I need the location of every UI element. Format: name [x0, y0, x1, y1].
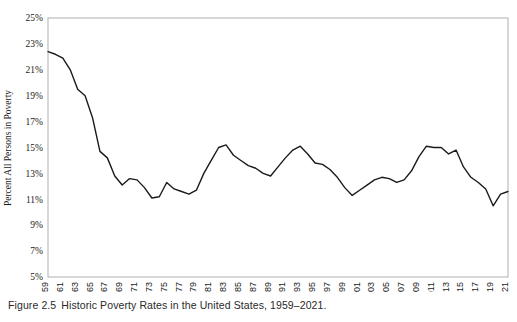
x-tick-label: 1985: [233, 282, 243, 292]
x-tick-label: 2009: [411, 282, 421, 292]
x-tick-label: 1987: [248, 282, 258, 292]
y-tick-label: 11%: [26, 195, 43, 205]
x-tick-label: 1969: [114, 282, 124, 292]
y-tick-label: 19%: [26, 91, 44, 101]
x-tick-label: 1967: [99, 282, 109, 292]
caption-label: Figure 2.5: [8, 299, 56, 311]
figure-caption: Figure 2.5Historic Poverty Rates in the …: [8, 299, 508, 311]
y-tick-label: 13%: [26, 169, 44, 179]
x-tick-label: 1993: [292, 282, 302, 292]
x-tick-label: 2015: [455, 282, 465, 292]
y-axis-title: Percent All Persons in Poverty: [3, 90, 13, 206]
x-tick-label: 1995: [307, 282, 317, 292]
x-tick-label: 1973: [144, 282, 154, 292]
x-tick-label: 2005: [381, 282, 391, 292]
x-tick-label: 2019: [485, 282, 495, 292]
x-tick-label: 1983: [218, 282, 228, 292]
chart-plot-area: Percent All Persons in Poverty 25% 23% 2…: [0, 0, 517, 292]
x-tick-label: 1989: [263, 282, 273, 292]
y-tick-label: 21%: [26, 65, 44, 75]
x-tick-label: 2011: [426, 282, 436, 292]
x-axis-tick-labels: 1959196119631965196719691971197319751977…: [40, 282, 510, 292]
x-tick-label: 1979: [188, 282, 198, 292]
x-tick-label: 1961: [55, 282, 65, 292]
x-tick-label: 1971: [129, 282, 139, 292]
y-tick-label: 23%: [26, 39, 44, 49]
poverty-rate-line-chart: Percent All Persons in Poverty 25% 23% 2…: [0, 0, 517, 292]
x-tick-label: 1965: [85, 282, 95, 292]
x-tick-label: 2017: [470, 282, 480, 292]
y-tick-label: 9%: [30, 220, 43, 230]
y-tick-label: 5%: [30, 272, 43, 282]
x-tick-label: 1977: [174, 282, 184, 292]
x-tick-label: 1975: [159, 282, 169, 292]
x-tick-label: 1963: [70, 282, 80, 292]
x-tick-label: 1991: [277, 282, 287, 292]
x-tick-label: 1999: [337, 282, 347, 292]
y-axis-tick-labels: 25% 23% 21% 19% 17% 15% 13% 11% 9% 7% 5%: [26, 13, 44, 282]
x-tick-label: 2013: [441, 282, 451, 292]
x-tick-label: 2007: [396, 282, 406, 292]
y-tick-label: 15%: [26, 143, 44, 153]
x-tick-label: 1959: [40, 282, 50, 292]
x-tick-label: 2021: [500, 282, 510, 292]
y-tick-label: 17%: [26, 117, 44, 127]
x-tick-label: 1981: [203, 282, 213, 292]
poverty-rate-line: [48, 52, 508, 206]
y-tick-label: 25%: [26, 13, 44, 23]
x-tick-label: 2003: [366, 282, 376, 292]
x-tick-label: 2001: [352, 282, 362, 292]
x-tick-label: 1997: [322, 282, 332, 292]
y-tick-label: 7%: [30, 246, 43, 256]
figure-container: Percent All Persons in Poverty 25% 23% 2…: [0, 0, 517, 322]
caption-text: Historic Poverty Rates in the United Sta…: [61, 299, 326, 311]
